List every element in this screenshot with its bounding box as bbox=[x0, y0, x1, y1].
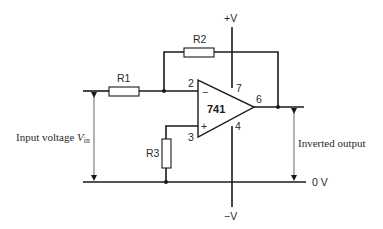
pin-6-label: 6 bbox=[256, 93, 262, 105]
positive-supply-label: +V bbox=[224, 12, 237, 24]
opamp-label: 741 bbox=[207, 103, 225, 115]
ground-label: 0 V bbox=[312, 176, 328, 188]
pin-7-label: 7 bbox=[236, 82, 242, 94]
pin-4-label: 4 bbox=[235, 120, 241, 132]
inverted-output-label: Inverted output bbox=[298, 137, 366, 149]
inverting-amplifier-circuit: +V −V R1 R2 741 − + 2 3 7 4 6 R3 0 V Inp… bbox=[0, 0, 383, 229]
opamp-plus-sign: + bbox=[201, 120, 207, 132]
resistor-r1 bbox=[109, 87, 139, 96]
resistor-r2-label: R2 bbox=[193, 33, 207, 45]
opamp-minus-sign: − bbox=[202, 86, 208, 98]
junction-dot-output bbox=[276, 105, 280, 109]
pin-3-label: 3 bbox=[188, 131, 194, 143]
resistor-r2 bbox=[184, 48, 214, 57]
input-voltage-label: Input voltage Vin bbox=[16, 131, 90, 145]
resistor-r3-label: R3 bbox=[146, 147, 160, 159]
negative-supply-label: −V bbox=[224, 210, 237, 222]
resistor-r1-label: R1 bbox=[117, 72, 131, 84]
resistor-r3 bbox=[162, 139, 171, 168]
pin-2-label: 2 bbox=[188, 77, 194, 89]
feedback-wire-left bbox=[164, 52, 184, 91]
